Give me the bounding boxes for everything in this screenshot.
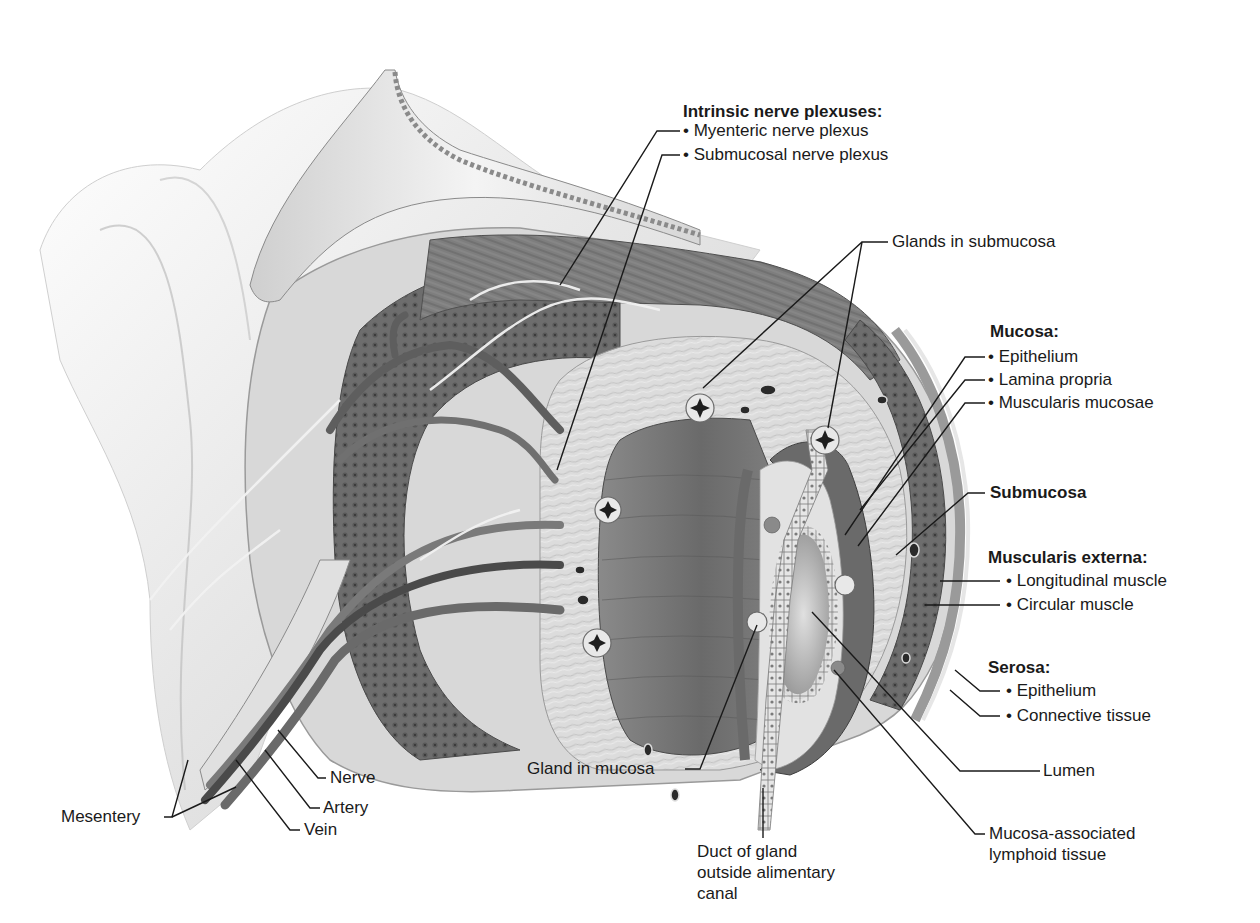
label-nerve: Nerve bbox=[330, 768, 375, 788]
label-circular-muscle: • Circular muscle bbox=[1006, 595, 1134, 615]
anatomical-illustration bbox=[0, 0, 1260, 923]
label-lumen: Lumen bbox=[1043, 761, 1095, 781]
label-artery: Artery bbox=[323, 798, 368, 818]
label-duct-line3: canal bbox=[697, 884, 738, 904]
label-gland-in-mucosa: Gland in mucosa bbox=[527, 759, 655, 779]
label-mesentery: Mesentery bbox=[61, 807, 140, 827]
label-vein: Vein bbox=[304, 820, 337, 840]
label-serosa-epithelium: • Epithelium bbox=[1006, 681, 1096, 701]
alimentary-canal-diagram: Intrinsic nerve plexuses: • Myenteric ne… bbox=[0, 0, 1260, 923]
label-connective-tissue: • Connective tissue bbox=[1006, 706, 1151, 726]
label-submucosa: Submucosa bbox=[990, 483, 1086, 503]
label-muscularis-mucosae: • Muscularis mucosae bbox=[988, 393, 1154, 413]
label-myenteric-nerve-plexus: • Myenteric nerve plexus bbox=[683, 121, 868, 141]
label-duct-line1: Duct of gland bbox=[697, 842, 797, 862]
label-lamina-propria: • Lamina propria bbox=[988, 370, 1112, 390]
label-mucosa-epithelium: • Epithelium bbox=[988, 347, 1078, 367]
label-mucosa-heading: Mucosa: bbox=[990, 322, 1059, 342]
label-submucosal-nerve-plexus: • Submucosal nerve plexus bbox=[683, 145, 888, 165]
label-duct-line2: outside alimentary bbox=[697, 863, 835, 883]
label-malt-line2: lymphoid tissue bbox=[989, 845, 1106, 865]
label-malt-line1: Mucosa-associated bbox=[989, 824, 1135, 844]
label-glands-in-submucosa: Glands in submucosa bbox=[892, 232, 1055, 252]
label-longitudinal-muscle: • Longitudinal muscle bbox=[1006, 571, 1167, 591]
label-muscularis-externa-heading: Muscularis externa: bbox=[988, 548, 1148, 568]
label-intrinsic-nerve-plexuses-heading: Intrinsic nerve plexuses: bbox=[683, 102, 882, 122]
label-serosa-heading: Serosa: bbox=[988, 658, 1050, 678]
